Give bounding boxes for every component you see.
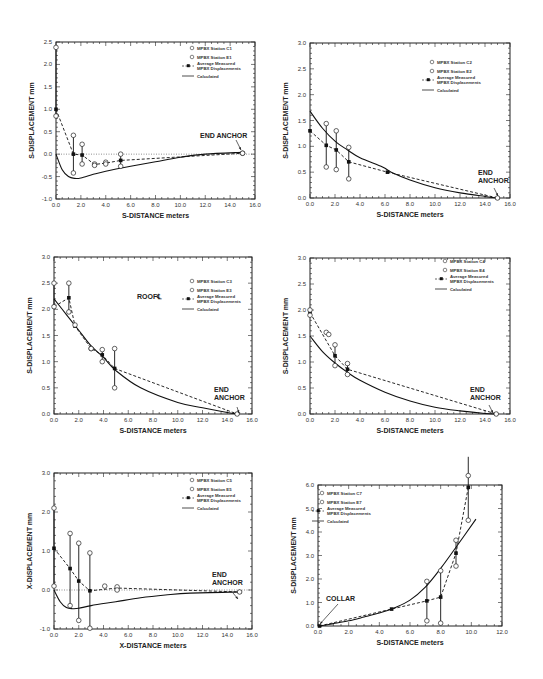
x-axis-label: S-DISTANCE meters — [119, 427, 186, 434]
station-e-marker — [495, 196, 500, 201]
average-marker — [425, 599, 429, 603]
x-tick-label: 6.0 — [124, 632, 133, 638]
x-tick-label: 14.0 — [479, 417, 491, 423]
x-tick-label: 16.0 — [246, 632, 258, 638]
station-e-marker — [68, 603, 73, 608]
average-marker — [466, 486, 470, 490]
y-tick-label: 0.0 — [42, 587, 51, 593]
average-marker — [386, 170, 390, 174]
y-axis-label: S-DISPLACEMENT mm — [282, 82, 289, 159]
x-tick-label: 14.0 — [221, 632, 233, 638]
legend-label: MPBX Station E2 — [437, 69, 472, 74]
station-e-marker — [52, 304, 57, 309]
legend-label: MPBX Station E4 — [450, 268, 485, 273]
average-marker — [390, 607, 394, 611]
legend-circle-icon — [190, 46, 194, 50]
y-axis-label: X-DISPLACEMENT mm — [26, 513, 33, 590]
station-e-marker — [71, 171, 76, 176]
average-marker — [100, 353, 104, 357]
annotation-label: END — [478, 169, 493, 176]
x-tick-label: 16.0 — [504, 201, 516, 207]
y-tick-label: 0.5 — [42, 385, 51, 391]
x-tick-label: 0.0 — [314, 629, 323, 635]
station-c-marker — [112, 346, 117, 351]
y-tick-label: 2.0 — [42, 306, 51, 312]
y-tick-label: 4.0 — [306, 529, 315, 535]
annotation-label: COLLAR — [326, 595, 355, 602]
y-tick-label: 2.0 — [306, 576, 315, 582]
x-tick-label: 12.0 — [199, 202, 211, 208]
average-marker — [80, 153, 84, 157]
chart-panel-4: 0.02.04.06.08.010.012.014.016.00.00.51.0… — [282, 255, 516, 434]
y-tick-label: 0.0 — [298, 411, 307, 417]
station-e-marker — [334, 167, 339, 172]
x-tick-label: 10.0 — [429, 201, 441, 207]
legend-label: MPBX Station C2 — [437, 60, 472, 65]
calculated-curve — [310, 111, 498, 198]
legend-label: MPBX Station E5 — [197, 487, 232, 492]
x-tick-label: 6.0 — [381, 417, 390, 423]
station-e-marker — [80, 162, 85, 167]
station-e-marker — [88, 626, 93, 631]
station-c-marker — [466, 473, 471, 478]
calculated-curve — [320, 519, 476, 626]
station-c-marker — [346, 145, 351, 150]
y-axis-label: S-DISPLACEMENT mm — [28, 82, 35, 159]
station-c-marker — [80, 142, 85, 147]
legend-label: Calculated — [197, 74, 219, 79]
y-tick-label: 3.0 — [42, 470, 51, 476]
x-tick-label: 6.0 — [406, 629, 415, 635]
legend-label: MPBX Station C3 — [197, 279, 232, 284]
annotation-label: ANCHOR — [478, 177, 509, 184]
y-tick-label: 2.0 — [42, 509, 51, 515]
y-tick-label: 1.0 — [42, 548, 51, 554]
legend-label: MPBX Station E7 — [327, 500, 362, 505]
station-e-marker — [52, 584, 57, 589]
x-tick-label: 14.0 — [221, 417, 233, 423]
legend-circle-icon — [320, 491, 324, 495]
average-marker — [347, 160, 351, 164]
x-tick-label: 0.0 — [50, 417, 59, 423]
legend-circle-icon — [190, 478, 194, 482]
station-e-marker — [333, 363, 338, 368]
annotation-label: ANCHOR — [214, 394, 245, 401]
x-tick-label: 8.0 — [436, 629, 445, 635]
station-e-marker — [324, 165, 329, 170]
legend-label: MPBX Station C7 — [327, 491, 362, 496]
legend-label: Calculated — [450, 287, 472, 292]
y-tick-label: 1.5 — [42, 333, 51, 339]
station-c-marker — [102, 584, 107, 589]
legend-square-icon — [187, 64, 190, 67]
legend-label: MPBX Station C4 — [450, 259, 485, 264]
station-e-marker — [454, 564, 459, 569]
annotation-label: ANCHOR — [212, 579, 243, 586]
x-tick-label: 0.0 — [306, 201, 315, 207]
y-tick-label: 1.5 — [44, 84, 53, 90]
y-axis-label: S-DISPLACEMENT mm — [26, 297, 33, 374]
y-tick-label: 3.0 — [298, 255, 307, 261]
legend-square-icon — [187, 496, 190, 499]
x-tick-label: 2.0 — [344, 629, 353, 635]
legend: MPBX Station C3MPBX Station E3Average Me… — [182, 279, 242, 312]
station-e-marker — [92, 163, 97, 168]
station-e-marker — [240, 151, 245, 156]
x-tick-label: 2.0 — [331, 417, 340, 423]
x-tick-label: 8.0 — [149, 632, 158, 638]
average-measured-line — [54, 298, 237, 414]
legend-label: MPBX Station C1 — [197, 46, 232, 51]
legend-label: MPBX Displacements — [327, 511, 372, 516]
station-c-marker — [438, 568, 443, 573]
legend-circle-icon — [320, 500, 324, 504]
y-tick-label: 2.0 — [298, 307, 307, 313]
y-tick-label: -0.5 — [42, 174, 53, 180]
x-tick-label: 10.0 — [465, 629, 477, 635]
y-tick-label: 3.0 — [298, 40, 307, 46]
legend-circle-icon — [443, 259, 447, 263]
x-tick-label: 4.0 — [99, 632, 108, 638]
y-tick-label: 0.0 — [44, 151, 53, 157]
x-tick-label: 12.0 — [496, 629, 508, 635]
average-marker — [77, 579, 81, 583]
station-c-marker — [73, 323, 78, 328]
x-axis-label: S-DISTANCE meters — [376, 639, 443, 646]
legend-circle-icon — [190, 279, 194, 283]
